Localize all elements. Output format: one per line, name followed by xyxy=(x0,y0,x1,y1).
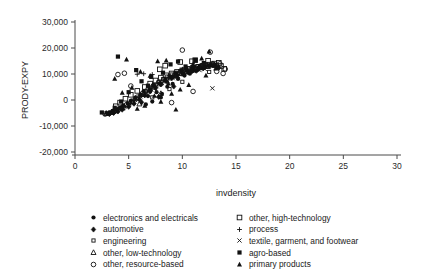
marker-filled-triangle xyxy=(207,49,212,54)
marker-filled-triangle xyxy=(237,261,242,266)
marker-small-open-square xyxy=(208,70,211,73)
marker-open-square xyxy=(237,215,242,220)
y-tick-label: -10,000 xyxy=(39,121,68,131)
legend-left-item[interactable]: other, low-technology xyxy=(88,247,198,259)
marker-filled-square xyxy=(211,63,215,67)
marker-filled-triangle xyxy=(199,56,204,61)
axes: 30,00020,00010,0000-10,000-20,000 051015… xyxy=(39,17,402,171)
marker-filled-square xyxy=(237,250,241,254)
marker-open-circle xyxy=(191,89,196,94)
legend-right-item[interactable]: other, high-technology xyxy=(234,212,358,224)
legend-right-label: primary products xyxy=(249,259,311,269)
legend-left-item[interactable]: other, resource-based xyxy=(88,258,198,270)
marker-filled-square xyxy=(189,69,193,73)
marker-filled-triangle xyxy=(186,82,191,87)
open-triangle-icon xyxy=(88,247,99,258)
scatter-plot-figure: 30,00020,00010,0000-10,000-20,000 051015… xyxy=(0,0,425,274)
marker-filled-triangle xyxy=(155,59,160,64)
marker-filled-circle xyxy=(150,99,154,103)
marker-open-circle xyxy=(180,48,185,53)
open-circle-icon xyxy=(88,259,99,270)
marker-filled-triangle xyxy=(135,106,140,111)
legend-right-label: textile, garment, and footwear xyxy=(249,236,358,246)
y-tick-label: 0 xyxy=(63,95,68,105)
marker-filled-square xyxy=(139,79,143,83)
marker-filled-triangle xyxy=(120,90,125,95)
x-tick-label: 5 xyxy=(126,161,131,171)
marker-open-square xyxy=(123,96,128,101)
marker-filled-square xyxy=(168,62,172,66)
marker-filled-square xyxy=(193,58,197,62)
marker-filled-triangle xyxy=(178,87,183,92)
marker-open-square xyxy=(163,63,168,68)
marker-open-circle xyxy=(169,100,174,105)
legend-left-label: automotive xyxy=(103,224,144,234)
marker-filled-square xyxy=(127,90,131,94)
legend-right-label: process xyxy=(249,224,278,234)
marker-filled-square xyxy=(183,64,187,68)
legend-left-item[interactable]: engineering xyxy=(88,235,198,247)
marker-cross xyxy=(237,239,241,243)
legend-left-label: electronics and electricals xyxy=(103,213,198,223)
marker-open-square xyxy=(135,89,140,94)
marker-filled-triangle xyxy=(129,85,134,90)
legend-right-item[interactable]: process xyxy=(234,224,358,236)
marker-filled-square xyxy=(113,106,117,110)
marker-filled-circle xyxy=(91,216,95,220)
marker-filled-square xyxy=(176,59,180,63)
marker-filled-square xyxy=(172,75,176,79)
x-tick-label: 15 xyxy=(231,161,241,171)
marker-open-triangle xyxy=(91,250,96,255)
marker-filled-triangle xyxy=(158,99,163,104)
filled-circle-icon xyxy=(88,212,99,223)
marker-cross xyxy=(210,86,214,90)
y-tick-label: 30,000 xyxy=(42,17,68,27)
x-axis-ticks: 051015202530 xyxy=(73,155,402,171)
legend-right-label: agro-based xyxy=(249,248,291,258)
marker-open-circle xyxy=(221,71,226,76)
marker-filled-square xyxy=(161,71,165,75)
legend-right-label: other, high-technology xyxy=(249,213,331,223)
marker-filled-triangle xyxy=(124,57,129,62)
x-tick-label: 30 xyxy=(392,161,402,171)
plot-canvas: 30,00020,00010,0000-10,000-20,000 051015… xyxy=(0,0,425,274)
filled-square-icon xyxy=(234,247,245,258)
marker-plus xyxy=(237,227,242,232)
legend-left-item[interactable]: automotive xyxy=(88,224,198,236)
marker-filled-square xyxy=(100,110,104,114)
marker-open-circle xyxy=(91,262,96,267)
x-axis-title: invdensity xyxy=(216,188,257,198)
y-axis-ticks: 30,00020,00010,0000-10,000-20,000 xyxy=(39,17,75,157)
legend-right-item[interactable]: agro-based xyxy=(234,247,358,259)
legend-column-left: electronics and electricalsautomotiveeng… xyxy=(88,212,198,270)
legend-left-label: other, resource-based xyxy=(103,259,184,269)
marker-filled-triangle xyxy=(173,107,178,112)
legend-left-label: engineering xyxy=(103,236,146,246)
marker-filled-triangle xyxy=(169,91,174,96)
plus-icon xyxy=(234,224,245,235)
x-tick-label: 25 xyxy=(339,161,349,171)
marker-filled-square xyxy=(116,54,120,58)
filled-triangle-icon xyxy=(234,259,245,270)
marker-small-open-square xyxy=(92,239,95,242)
x-tick-label: 20 xyxy=(285,161,295,171)
marker-filled-diamond xyxy=(91,227,95,232)
x-tick-label: 0 xyxy=(73,161,78,171)
marker-filled-triangle xyxy=(138,69,143,74)
y-tick-label: -20,000 xyxy=(39,147,68,157)
legend-right-item[interactable]: primary products xyxy=(234,258,358,270)
marker-filled-square xyxy=(146,84,150,88)
filled-diamond-icon xyxy=(88,224,99,235)
y-axis-title: PRODY-EXPY xyxy=(20,61,30,119)
legend-left-item[interactable]: electronics and electricals xyxy=(88,212,198,224)
marker-small-open-square xyxy=(181,80,184,83)
marker-filled-circle xyxy=(154,90,158,94)
marker-filled-square xyxy=(202,61,206,65)
legend-left-label: other, low-technology xyxy=(103,248,181,258)
marker-filled-square xyxy=(134,68,138,72)
marker-open-circle xyxy=(116,72,121,77)
legend-right-item[interactable]: textile, garment, and footwear xyxy=(234,235,358,247)
legend-column-right: other, high-technologyprocesstextile, ga… xyxy=(234,212,358,270)
data-points xyxy=(100,48,228,117)
marker-filled-square xyxy=(119,99,123,103)
